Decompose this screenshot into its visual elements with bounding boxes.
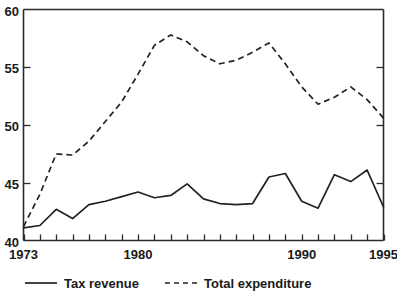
chart-figure: 4045505560 1973198019901995 Tax revenue … (0, 0, 397, 299)
x-tick-marks (25, 235, 385, 241)
y-tick-marks (24, 68, 384, 184)
series-line-tax-revenue (24, 170, 384, 228)
y-tick-label-55: 55 (5, 61, 19, 76)
line-chart-svg: 4045505560 1973198019901995 Tax revenue … (0, 0, 397, 299)
x-tick-label-1995: 1995 (369, 247, 397, 262)
x-tick-labels: 1973198019901995 (9, 247, 397, 262)
x-tick-label-1980: 1980 (124, 247, 153, 262)
y-tick-label-45: 45 (5, 177, 19, 192)
plot-frame (24, 10, 384, 241)
legend-label-total-expenditure: Total expenditure (204, 276, 311, 291)
y-tick-label-50: 50 (5, 119, 19, 134)
chart-legend: Tax revenue Total expenditure (25, 276, 311, 291)
y-tick-labels: 4045505560 (5, 4, 19, 250)
y-tick-label-60: 60 (5, 4, 19, 19)
legend-label-tax-revenue: Tax revenue (64, 276, 139, 291)
x-tick-label-1973: 1973 (9, 247, 38, 262)
x-tick-label-1990: 1990 (287, 247, 316, 262)
